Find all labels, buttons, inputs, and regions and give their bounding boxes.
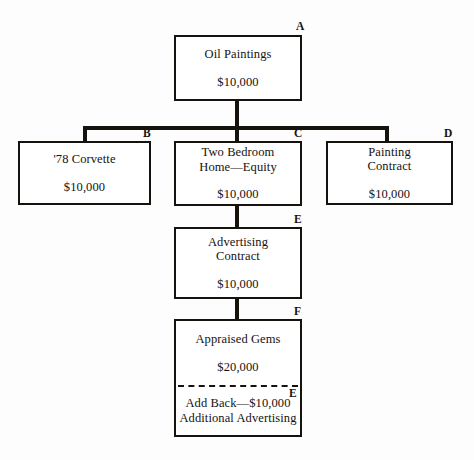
- node-f-sub-title: Add Back—$10,000 Additional Advertising: [179, 396, 296, 427]
- connector-bus-to-d: [385, 126, 389, 142]
- node-c-amount: $10,000: [217, 187, 258, 202]
- node-b-tag: B: [143, 127, 151, 139]
- node-d-amount: $10,000: [369, 187, 410, 202]
- node-b-amount: $10,000: [64, 180, 105, 195]
- connector-bus-to-b: [83, 126, 87, 142]
- node-d-title: Painting Contract: [368, 145, 412, 174]
- node-c-tag: C: [294, 127, 303, 139]
- node-f-title: Appraised Gems: [195, 332, 280, 347]
- node-c-title: Two Bedroom Home—Equity: [199, 145, 276, 174]
- node-d[interactable]: Painting Contract $10,000: [326, 141, 453, 205]
- connector-c-to-e: [235, 205, 239, 227]
- connector-bus-to-c: [235, 126, 239, 142]
- node-a-title: Oil Paintings: [205, 47, 272, 62]
- connector-a-to-bus: [235, 99, 239, 128]
- node-a-tag: A: [296, 20, 305, 32]
- node-d-tag: D: [444, 127, 453, 139]
- node-a-amount: $10,000: [217, 75, 258, 90]
- connector-e-to-f: [235, 299, 239, 319]
- node-c[interactable]: Two Bedroom Home—Equity $10,000: [174, 141, 302, 206]
- diagram-canvas: Oil Paintings $10,000 A '78 Corvette $10…: [0, 0, 474, 460]
- node-e-tag: E: [294, 213, 302, 225]
- node-b-title: '78 Corvette: [53, 152, 115, 167]
- node-f-amount: $20,000: [217, 360, 258, 375]
- node-f-sub-tag: E: [289, 387, 297, 399]
- node-f-upper: Appraised Gems $20,000: [176, 321, 300, 385]
- node-f-tag: F: [294, 305, 301, 317]
- node-e-amount: $10,000: [217, 277, 258, 292]
- node-b[interactable]: '78 Corvette $10,000: [18, 141, 151, 205]
- node-a[interactable]: Oil Paintings $10,000: [174, 35, 302, 101]
- node-e-title: Advertising Contract: [208, 235, 268, 264]
- node-e[interactable]: Advertising Contract $10,000: [174, 227, 302, 299]
- node-f-lower: Add Back—$10,000 Additional Advertising: [176, 387, 300, 435]
- node-f[interactable]: Appraised Gems $20,000 Add Back—$10,000 …: [174, 319, 302, 437]
